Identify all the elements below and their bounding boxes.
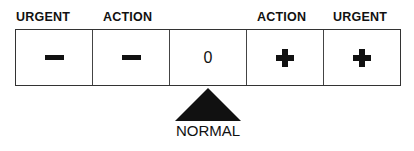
minus-icon: [122, 55, 141, 60]
plus-icon: [353, 49, 371, 67]
triangle-pointer-icon: [175, 88, 241, 121]
cell-urgent-minus: [16, 30, 93, 85]
label-urgent-left: URGENT: [16, 10, 70, 24]
cell-normal-zero: 0: [170, 30, 247, 85]
label-action-right: ACTION: [257, 10, 306, 24]
cell-action-minus: [93, 30, 170, 85]
deviation-scale: 0: [15, 29, 401, 86]
label-action-left: ACTION: [103, 10, 152, 24]
minus-icon: [45, 55, 64, 60]
cell-action-plus: [247, 30, 324, 85]
zero-value: 0: [204, 49, 213, 67]
plus-icon: [276, 49, 294, 67]
cell-urgent-plus: [324, 30, 400, 85]
label-urgent-right: URGENT: [333, 10, 387, 24]
normal-label: NORMAL: [174, 122, 242, 139]
